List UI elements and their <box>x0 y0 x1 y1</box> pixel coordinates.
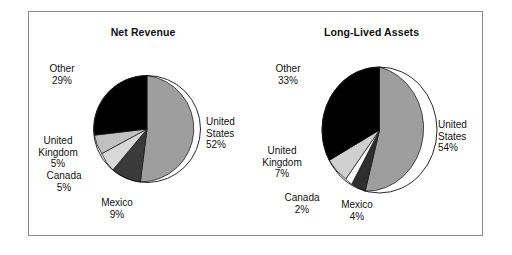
label-other-net-revenue: Other 29% <box>33 63 91 86</box>
pie-svg-long-lived-assets <box>321 66 438 194</box>
label-other-long-lived-assets: Other 33% <box>260 63 316 86</box>
pie-chart-net-revenue: Net Revenue Other 29% Unite <box>29 12 261 235</box>
label-united-kingdom-long-lived-assets: United Kingdom 7% <box>249 145 315 180</box>
label-united-kingdom-net-revenue: United Kingdom 5% <box>25 135 91 170</box>
label-canada-long-lived-assets: Canada 2% <box>273 192 331 215</box>
figure-frame: Net Revenue Other 29% Unite <box>28 11 483 236</box>
chart-title-long-lived-assets: Long-Lived Assets <box>265 26 478 38</box>
chart-title-net-revenue: Net Revenue <box>39 26 247 38</box>
label-mexico-net-revenue: Mexico 9% <box>91 197 143 220</box>
pie-graphic-long-lived-assets <box>321 66 438 194</box>
label-mexico-long-lived-assets: Mexico 4% <box>331 199 383 222</box>
pie-svg-net-revenue <box>93 63 201 195</box>
pie-chart-long-lived-assets: Long-Lived Assets Other 33% <box>261 12 484 235</box>
label-united-states-long-lived-assets: United States 54% <box>438 119 488 154</box>
pie-slice-other <box>94 76 147 136</box>
label-canada-net-revenue: Canada 5% <box>33 170 95 193</box>
pie-graphic-net-revenue <box>93 63 201 195</box>
